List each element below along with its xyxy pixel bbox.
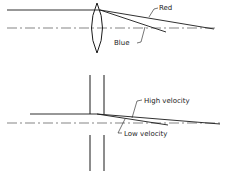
red-leader	[149, 8, 158, 17]
high-velocity-ray	[97, 114, 220, 124]
high-velocity-label: High velocity	[144, 97, 190, 105]
lens-diagram: Red Blue	[7, 3, 215, 53]
slit-diagram: High velocity Low velocity	[7, 75, 220, 171]
high-velocity-leader	[132, 100, 142, 118]
blue-ray	[100, 10, 166, 32]
low-velocity-label: Low velocity	[124, 130, 167, 138]
figure: Red Blue High velocity Low velocity	[0, 0, 225, 180]
red-label: Red	[159, 4, 172, 12]
blue-leader	[137, 27, 145, 43]
blue-label: Blue	[114, 39, 130, 47]
red-ray	[100, 10, 214, 29]
